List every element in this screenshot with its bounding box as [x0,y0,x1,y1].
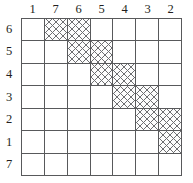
matrix-cell-shaded [68,19,91,41]
matrix-cell-empty [91,131,114,153]
column-header-4: 4 [113,0,136,18]
matrix-row [22,19,182,41]
matrix-cell-empty [91,109,114,131]
matrix-cell-empty [68,154,91,176]
matrix-cell-empty [22,109,45,131]
matrix-cell-empty [159,41,182,63]
matrix-cell-empty [45,131,68,153]
matrix-cell-empty [68,109,91,131]
matrix-cell-empty [113,41,136,63]
row-header-2: 4 [0,63,21,86]
row-header-6: 7 [0,153,21,176]
matrix-cell-empty [159,64,182,86]
matrix-cell-shaded [136,109,159,131]
matrix-cell-empty [159,86,182,108]
matrix-cell-empty [159,19,182,41]
matrix-row [22,41,182,63]
matrix-cell-empty [22,86,45,108]
matrix-cell-empty [136,19,159,41]
matrix-cell-empty [45,64,68,86]
matrix-figure: 1 7 6 5 4 3 2 6 5 4 3 2 1 7 [0,0,193,183]
matrix-cell-empty [22,64,45,86]
matrix-cell-empty [45,109,68,131]
matrix-cell-empty [91,154,114,176]
matrix-cell-empty [91,19,114,41]
matrix-cell-empty [68,131,91,153]
matrix-cell-empty [45,41,68,63]
matrix-cell-empty [136,64,159,86]
row-header-column: 6 5 4 3 2 1 7 [0,18,21,176]
matrix-cell-empty [22,154,45,176]
matrix-cell-empty [136,131,159,153]
matrix-cell-empty [22,131,45,153]
matrix-cell-shaded [159,131,182,153]
matrix-cell-shaded [91,41,114,63]
matrix-cell-empty [159,154,182,176]
matrix-cell-empty [22,41,45,63]
matrix-row [22,109,182,131]
row-header-5: 1 [0,131,21,154]
column-header-1: 7 [44,0,67,18]
matrix-cell-empty [136,154,159,176]
column-header-row: 1 7 6 5 4 3 2 [21,0,182,18]
column-header-2: 6 [67,0,90,18]
matrix-cell-empty [136,41,159,63]
matrix-cell-empty [113,154,136,176]
column-header-3: 5 [90,0,113,18]
matrix-cell-shaded [136,86,159,108]
matrix-cell-empty [113,131,136,153]
row-header-4: 2 [0,108,21,131]
row-header-3: 3 [0,86,21,109]
matrix-cell-shaded [45,19,68,41]
matrix-row [22,64,182,86]
matrix-grid [21,18,182,176]
matrix-cell-empty [113,109,136,131]
row-header-1: 5 [0,41,21,64]
matrix-cell-shaded [113,86,136,108]
matrix-row [22,154,182,176]
matrix-cell-shaded [91,64,114,86]
matrix-cell-empty [91,86,114,108]
matrix-cell-empty [68,86,91,108]
matrix-row [22,131,182,153]
matrix-cell-empty [68,64,91,86]
matrix-cell-empty [113,19,136,41]
column-header-0: 1 [21,0,44,18]
column-header-5: 3 [136,0,159,18]
row-header-0: 6 [0,18,21,41]
matrix-cell-shaded [159,109,182,131]
matrix-row [22,86,182,108]
column-header-6: 2 [159,0,182,18]
matrix-cell-empty [45,154,68,176]
matrix-cell-empty [22,19,45,41]
matrix-cell-empty [45,86,68,108]
matrix-cell-shaded [68,41,91,63]
matrix-cell-shaded [113,64,136,86]
